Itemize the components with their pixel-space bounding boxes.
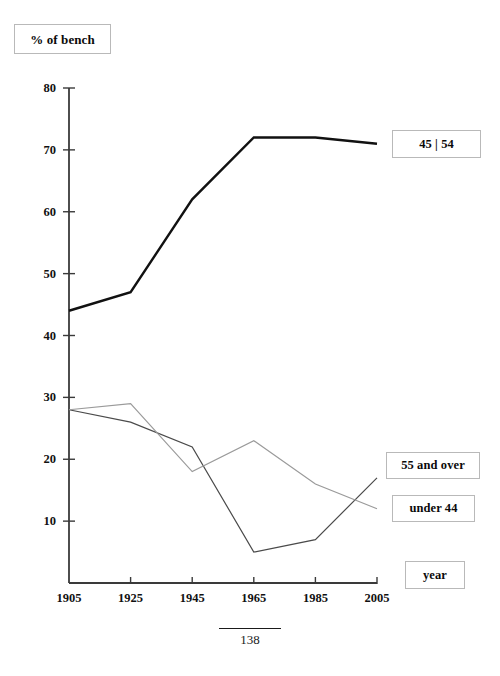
x-axis-tick-label: 1985	[287, 592, 343, 605]
y-axis-tick-label: 30	[26, 391, 56, 404]
page-number: 138	[0, 633, 500, 646]
series-line-55-and-over	[69, 410, 377, 552]
page-footer: 138	[0, 628, 500, 646]
y-axis-tick-label: 50	[26, 268, 56, 281]
y-axis-tick-label: 80	[26, 82, 56, 95]
y-axis-tick-label: 40	[26, 330, 56, 343]
footer-rule	[219, 628, 281, 629]
y-axis-tick-label: 20	[26, 453, 56, 466]
series-line-45-54	[69, 138, 377, 311]
line-chart-plot	[0, 0, 500, 676]
axis-lines	[69, 88, 377, 583]
x-axis-tick-label: 1965	[226, 592, 282, 605]
x-axis-tick-label: 1905	[41, 592, 97, 605]
data-series-lines	[69, 138, 377, 553]
y-axis-tick-label: 10	[26, 515, 56, 528]
x-axis-tick-label: 1925	[103, 592, 159, 605]
x-axis-tick-label: 2005	[349, 592, 405, 605]
y-axis-tick-label: 60	[26, 206, 56, 219]
x-axis-tick-label: 1945	[164, 592, 220, 605]
page-canvas: % of bench 45 | 54 55 and over under 44 …	[0, 0, 500, 676]
y-axis-tick-label: 70	[26, 144, 56, 157]
